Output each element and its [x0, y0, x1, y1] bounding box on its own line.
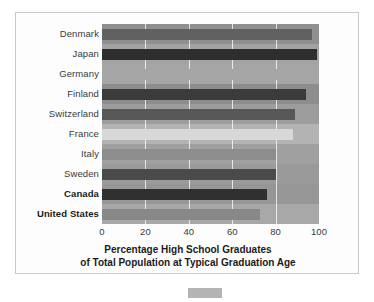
bar-row: [102, 184, 319, 204]
bar-row: [102, 64, 319, 84]
category-label: Sweden: [16, 164, 104, 184]
bar: [102, 169, 276, 180]
category-label: United States: [16, 204, 104, 224]
bar-row: [102, 24, 319, 44]
bar: [102, 89, 306, 100]
bar-row: [102, 204, 319, 224]
category-label: Germany: [16, 64, 104, 84]
axis-title-line-2: of Total Population at Typical Graduatio…: [16, 257, 360, 270]
bar: [102, 149, 276, 160]
bar: [102, 69, 308, 80]
axis-title: Percentage High School Graduates of Tota…: [16, 244, 360, 270]
axis-title-line-1: Percentage High School Graduates: [16, 244, 360, 257]
category-label: Japan: [16, 44, 104, 64]
bottom-swatch: [188, 288, 222, 298]
bar: [102, 109, 295, 120]
bar-row: [102, 84, 319, 104]
bar: [102, 209, 260, 220]
category-label: France: [16, 124, 104, 144]
bar-row: [102, 124, 319, 144]
bar-row: [102, 104, 319, 124]
x-axis-tick-label: 20: [140, 227, 151, 237]
x-axis-tick-label: 80: [270, 227, 281, 237]
category-label: Finland: [16, 84, 104, 104]
x-axis-tick-label: 60: [227, 227, 238, 237]
bar-chart: DenmarkJapanGermanyFinlandSwitzerlandFra…: [16, 13, 360, 275]
x-axis-tick-label: 40: [184, 227, 195, 237]
bar: [102, 29, 312, 40]
category-axis-labels: DenmarkJapanGermanyFinlandSwitzerlandFra…: [16, 24, 104, 224]
category-label: Italy: [16, 144, 104, 164]
bar-series: [102, 24, 319, 224]
category-label: Denmark: [16, 24, 104, 44]
bar: [102, 129, 293, 140]
plot-area: [102, 24, 319, 224]
bar: [102, 49, 317, 60]
bar-row: [102, 144, 319, 164]
category-label: Canada: [16, 184, 104, 204]
chart-figure: DenmarkJapanGermanyFinlandSwitzerlandFra…: [15, 12, 359, 274]
bar: [102, 189, 267, 200]
category-label: Switzerland: [16, 104, 104, 124]
bar-row: [102, 44, 319, 64]
bar-row: [102, 164, 319, 184]
x-axis-tick-label: 0: [99, 227, 104, 237]
x-axis-ticks: 020406080100: [102, 227, 319, 243]
x-axis-tick-label: 100: [311, 227, 327, 237]
